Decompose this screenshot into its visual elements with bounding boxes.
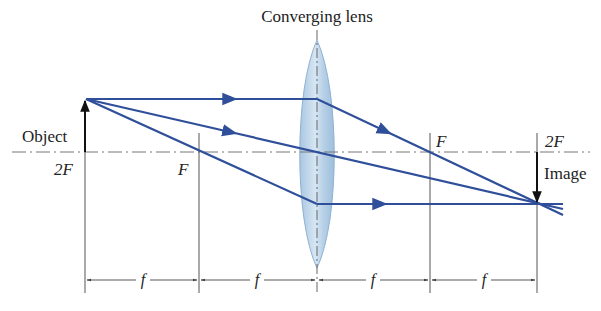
dim-f-4: f bbox=[482, 271, 489, 289]
dim-f-2: f bbox=[255, 271, 262, 289]
diagram-title: Converging lens bbox=[261, 7, 373, 26]
lens-diagram: Converging lens Object 2F F F 2F Image bbox=[0, 0, 601, 311]
dim-f-3: f bbox=[371, 271, 378, 289]
right-f-label: F bbox=[435, 132, 447, 151]
dim-f-1: f bbox=[141, 271, 148, 289]
object-label: Object bbox=[22, 127, 68, 146]
left-f-label: F bbox=[177, 160, 189, 179]
right-2f-label: 2F bbox=[545, 132, 565, 151]
ray-center-cont bbox=[228, 132, 563, 210]
ray-center bbox=[86, 99, 230, 132]
image-label: Image bbox=[544, 164, 586, 183]
left-2f-label: 2F bbox=[54, 160, 74, 179]
